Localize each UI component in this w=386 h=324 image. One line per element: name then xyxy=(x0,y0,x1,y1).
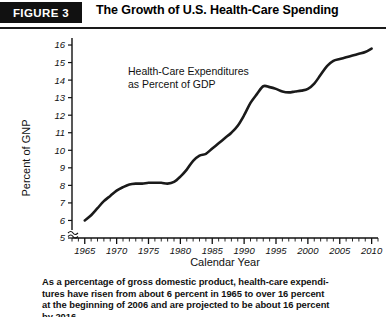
y-tick-label: 15 xyxy=(54,57,65,68)
caption-line-4: by 2016. xyxy=(42,311,380,317)
x-tick-label: 1985 xyxy=(202,245,224,256)
x-tick-label: 2005 xyxy=(328,245,351,256)
y-tick-label: 8 xyxy=(60,180,66,191)
y-tick-label: 5 xyxy=(60,232,66,243)
x-axis-title: Calendar Year xyxy=(190,256,260,268)
series-annotation-line1: Health-Care Expenditures xyxy=(128,65,249,77)
page-title: The Growth of U.S. Health-Care Spending xyxy=(96,3,382,17)
x-tick-label: 1980 xyxy=(170,245,192,256)
caption-line-3: at the beginning of 2006 and are project… xyxy=(42,299,380,311)
y-tick-label: 13 xyxy=(54,92,65,103)
figure-number-badge: FIGURE 3 xyxy=(0,2,82,23)
x-tick-label: 1965 xyxy=(74,245,96,256)
axis-break-icon xyxy=(68,232,78,235)
y-tick-label: 11 xyxy=(55,127,65,138)
series-annotation-line2: as Percent of GDP xyxy=(128,78,216,90)
header-divider xyxy=(0,27,386,29)
line-chart: 5678910111213141516 19651970197519801985… xyxy=(0,30,386,270)
x-axis-ticks: 1965197019751980198519901995200020052010 xyxy=(72,238,383,256)
figure-header: FIGURE 3 The Growth of U.S. Health-Care … xyxy=(0,0,386,30)
chart-container: 5678910111213141516 19651970197519801985… xyxy=(0,30,386,270)
caption-line-1: As a percentage of gross domestic produc… xyxy=(42,276,380,288)
y-tick-label: 14 xyxy=(54,75,65,86)
figure-caption: As a percentage of gross domestic produc… xyxy=(42,276,380,317)
y-tick-label: 7 xyxy=(60,197,66,208)
y-axis-ticks: 5678910111213141516 xyxy=(54,39,72,243)
caption-line-2: tures have risen from about 6 percent in… xyxy=(42,288,380,300)
y-tick-label: 16 xyxy=(54,39,65,50)
x-tick-label: 2000 xyxy=(296,245,319,256)
y-tick-label: 12 xyxy=(54,110,65,121)
x-tick-label: 2010 xyxy=(360,245,383,256)
x-tick-label: 1975 xyxy=(138,245,160,256)
y-tick-label: 6 xyxy=(60,215,66,226)
y-tick-label: 9 xyxy=(60,162,66,173)
x-tick-label: 1970 xyxy=(106,245,128,256)
x-tick-label: 1990 xyxy=(234,245,256,256)
x-tick-label: 1995 xyxy=(265,245,287,256)
y-axis-title: Percent of GNP xyxy=(20,119,32,196)
y-tick-label: 10 xyxy=(54,145,65,156)
